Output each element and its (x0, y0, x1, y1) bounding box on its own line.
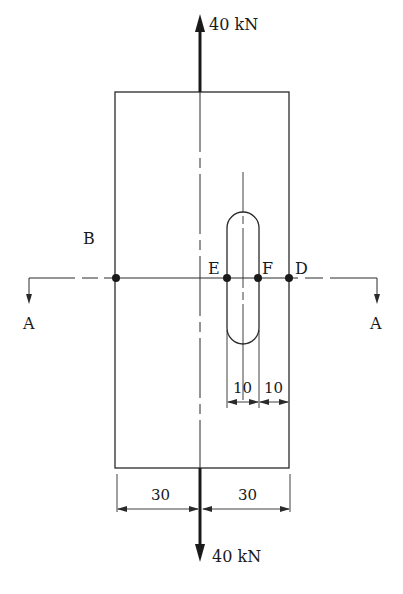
bottom-load-label: 40 kN (212, 549, 261, 565)
section-label-left: A (23, 316, 35, 332)
point-b-label: B (83, 231, 95, 247)
slot-dim-right-label: 10 (264, 381, 283, 396)
point-e-label: E (208, 261, 220, 277)
top-load-arrow (195, 14, 205, 92)
top-load-label: 40 kN (209, 17, 258, 33)
point-e-marker (223, 274, 231, 282)
section-line-a-a (26, 278, 380, 304)
point-f-marker (254, 274, 262, 282)
point-f-label: F (262, 261, 273, 277)
plate-outline (115, 92, 289, 468)
bottom-load-arrow (195, 468, 205, 562)
point-d-marker (285, 274, 293, 282)
plate-diagram (0, 0, 403, 594)
slot-dim-left-label: 10 (233, 381, 252, 396)
point-d-label: D (295, 261, 308, 277)
section-label-right: A (370, 316, 382, 332)
width-dim-right-label: 30 (238, 488, 257, 503)
width-dim-left-label: 30 (151, 488, 170, 503)
point-b-marker (112, 274, 120, 282)
